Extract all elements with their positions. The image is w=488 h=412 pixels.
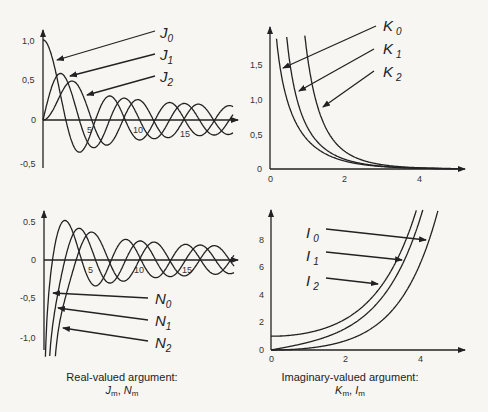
k-ytick: 0,5 (250, 130, 263, 140)
i-ytick: 0 (259, 345, 264, 355)
i-xtick: 4 (418, 354, 423, 364)
curve-k2 (305, 36, 458, 169)
n0-pointer-arrow (53, 293, 148, 298)
k-ytick: 1,0 (250, 95, 263, 105)
caption-left-line2: Jm, Nm (105, 384, 139, 398)
label-j0: J0 (159, 24, 174, 44)
label-i0: I0 (306, 224, 319, 244)
i-ytick: 2 (259, 317, 264, 327)
j0-pointer-arrow (57, 31, 155, 60)
curve-k1 (287, 37, 458, 169)
j-xtick: 10 (133, 125, 143, 135)
label-k1: K1 (383, 40, 402, 60)
label-j2: J2 (159, 68, 174, 88)
i-ytick: 8 (259, 235, 264, 245)
caption-right-line1: Imaginary-valued argument: (282, 371, 419, 383)
label-i1: I1 (306, 247, 319, 267)
label-j1: J1 (159, 46, 173, 66)
n2-pointer-arrow (63, 328, 148, 341)
i1-pointer-arrow (326, 252, 402, 260)
n1-pointer-arrow (58, 308, 148, 320)
chart-n-bessel: 0.5 0 -0,5 -1,0 5 10 15 N0 N1 N2 (20, 211, 238, 357)
i-xtick: 0 (269, 354, 274, 364)
k-xtick: 4 (417, 174, 422, 184)
label-n2: N2 (155, 334, 172, 354)
caption-left: Real-valued argument: Jm, Nm (66, 371, 177, 398)
j1-pointer-arrow (70, 54, 155, 76)
label-k0: K0 (383, 17, 402, 37)
caption-left-line1: Real-valued argument: (66, 371, 177, 383)
caption-right-line2: Km, Im (335, 384, 365, 398)
n-ytick: 0.5 (23, 217, 36, 227)
j-ytick: 0 (31, 115, 36, 125)
k0-pointer-arrow (283, 26, 376, 68)
label-i2: I2 (306, 272, 319, 292)
chart-j-bessel: 1,0 0,5 0 -0,5 5 10 15 J0 J1 J2 (20, 24, 238, 169)
i0-pointer-arrow (326, 229, 426, 240)
k-ytick: 0 (257, 164, 262, 174)
n-ytick: -1,0 (20, 333, 36, 343)
j-ytick: -0,5 (20, 159, 36, 169)
j-ytick: 1,0 (22, 36, 35, 46)
curve-j1 (43, 74, 233, 148)
k-ytick: 1,5 (250, 60, 263, 70)
label-n1: N1 (155, 312, 171, 332)
n-ytick: 0 (31, 255, 36, 265)
label-n0: N0 (155, 290, 172, 310)
label-k2: K2 (383, 63, 402, 83)
curve-j0 (43, 40, 233, 152)
curve-i0 (271, 210, 416, 336)
k-xtick: 2 (342, 174, 347, 184)
j-ytick: 0,5 (22, 75, 35, 85)
chart-i-bessel: 8 6 4 2 0 0 2 4 I0 I1 I2 (259, 210, 465, 364)
bessel-figure: 1,0 0,5 0 -0,5 5 10 15 J0 J1 J2 1,5 1,0 … (0, 0, 488, 412)
n-xtick: 5 (88, 265, 93, 275)
i2-pointer-arrow (326, 278, 378, 284)
k2-pointer-arrow (323, 71, 374, 107)
curve-j2 (43, 81, 233, 145)
j2-pointer-arrow (87, 76, 155, 95)
k-xtick: 0 (268, 174, 273, 184)
chart-k-bessel: 1,5 1,0 0,5 0 0 2 4 K0 K1 K2 (250, 17, 465, 184)
i-ytick: 4 (259, 290, 264, 300)
i-xtick: 2 (343, 354, 348, 364)
i-ytick: 6 (259, 262, 264, 272)
j-xtick: 15 (180, 129, 190, 139)
caption-right: Imaginary-valued argument: Km, Im (282, 371, 419, 398)
n-ytick: -0,5 (20, 293, 36, 303)
